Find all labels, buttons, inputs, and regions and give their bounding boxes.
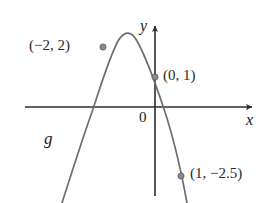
point-label-1-neg2.5: (1, −2.5)	[190, 166, 242, 181]
origin-label: 0	[139, 110, 147, 125]
curve-label-g: g	[44, 130, 53, 147]
parabola-graph-figure: y x 0 g (−2, 2) (0, 1) (1, −2.5)	[0, 0, 268, 203]
point-label-neg2-2: (−2, 2)	[29, 38, 70, 53]
y-axis-label: y	[140, 18, 147, 34]
point-label-0-1: (0, 1)	[163, 68, 196, 83]
data-point-marker-1-neg2.5	[178, 173, 184, 179]
x-axis-label: x	[246, 112, 253, 128]
data-point-marker-0-1	[152, 74, 158, 80]
parabola-curve-g	[62, 33, 187, 203]
data-point-marker-neg2-2	[100, 44, 106, 50]
